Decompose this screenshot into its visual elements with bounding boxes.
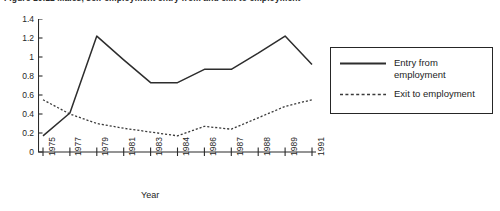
- legend-label: Exit to employment: [394, 88, 475, 100]
- figure-root: Figure 10.12 Males, self-employment entr…: [0, 0, 500, 211]
- legend-item-exit-to-employment: Exit to employment: [340, 88, 475, 100]
- x-axis-tick-label: 1981: [127, 137, 137, 156]
- y-axis-tick-label: 1.2: [22, 34, 34, 43]
- x-axis-tick-label: 1991: [316, 137, 326, 156]
- legend-item-entry-from-employment: Entry from employment: [340, 57, 446, 80]
- legend-swatch-solid-icon: [340, 58, 386, 69]
- x-axis-tick-label: 1984: [181, 137, 191, 156]
- legend-swatch-dotted-icon: [340, 89, 386, 100]
- y-axis-tick-label: 0.8: [22, 72, 34, 81]
- x-axis-tick-label: 1987: [235, 137, 245, 156]
- y-axis-tick-labels: 00.20.40.60.811.21.4: [0, 14, 34, 160]
- x-axis-tick-labels: 1975197719791981198319841986198719881989…: [38, 152, 328, 194]
- series-line-entry-from-employment: [43, 36, 312, 136]
- x-axis-tick-label: 1983: [154, 137, 164, 156]
- plot-area: [38, 19, 312, 152]
- y-axis-tick-label: 1.4: [22, 15, 34, 24]
- y-axis-tick-label: 0.6: [22, 91, 34, 100]
- x-axis-title: Year: [141, 190, 159, 200]
- legend-label: Entry from employment: [394, 57, 446, 80]
- y-axis-tick-label: 0.4: [22, 110, 34, 119]
- y-axis-tick-label: 0.2: [22, 129, 34, 138]
- x-axis-tick-label: 1979: [100, 137, 110, 156]
- x-axis-tick-label: 1989: [289, 137, 299, 156]
- x-axis-tick-label: 1975: [47, 137, 57, 156]
- y-axis-tick-label: 0: [29, 148, 34, 157]
- chart-legend: Entry from employment Exit to employment: [330, 47, 493, 114]
- x-axis-tick-label: 1986: [208, 137, 218, 156]
- figure-caption: Figure 10.12 Males, self-employment entr…: [4, 0, 496, 5]
- x-axis-tick-label: 1977: [73, 137, 83, 156]
- y-axis-tick-label: 1: [29, 53, 34, 62]
- x-axis-tick-label: 1988: [262, 137, 272, 156]
- series-line-exit-to-employment: [43, 100, 312, 136]
